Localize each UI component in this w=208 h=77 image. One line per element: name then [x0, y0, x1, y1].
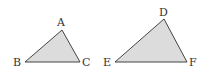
- vertex-label-b: B: [13, 56, 21, 69]
- triangle-def: D E F: [103, 6, 197, 69]
- vertex-label-c: C: [82, 56, 90, 69]
- vertex-label-a: A: [56, 16, 66, 29]
- vertex-label-e: E: [103, 56, 111, 69]
- vertex-label-d: D: [159, 6, 168, 19]
- triangle-abc-shape: [25, 30, 80, 62]
- triangle-def-shape: [115, 19, 187, 62]
- similar-triangles-figure: A B C D E F: [0, 0, 208, 77]
- triangle-abc: A B C: [13, 16, 90, 69]
- vertex-label-f: F: [189, 56, 197, 69]
